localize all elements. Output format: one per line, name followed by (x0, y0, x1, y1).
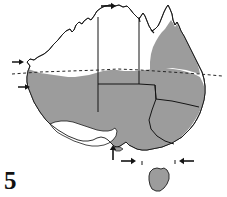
arrow-west-coast-a-icon (12, 59, 24, 65)
figure-container: 5 (0, 0, 227, 197)
arrow-southeast-right-icon (179, 158, 194, 164)
australia-map (0, 0, 227, 197)
shaded-region-southern-mainland (27, 68, 205, 150)
arrow-southeast-left-icon (121, 158, 136, 164)
figure-number-label: 5 (4, 168, 17, 193)
islands-group (113, 147, 169, 191)
island-tasmania (149, 168, 169, 191)
